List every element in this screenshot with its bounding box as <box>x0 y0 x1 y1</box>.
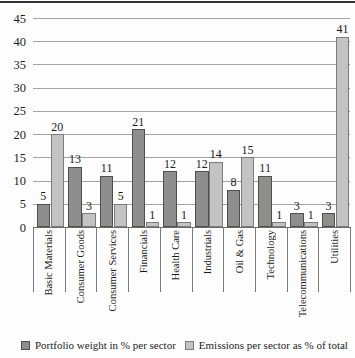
x-axis-category-label: Technology <box>264 230 277 279</box>
bar-value-label: 5 <box>110 190 132 203</box>
y-axis-tick-label: 20 <box>0 128 26 142</box>
x-axis-tick <box>160 228 161 292</box>
x-axis-category-label: Financials <box>137 230 150 273</box>
x-axis-category-label: Telecommunications <box>296 230 309 317</box>
bar-emissions <box>82 213 96 227</box>
legend-swatch-portfolio-weight-icon <box>21 341 30 350</box>
y-axis-tick-label: 30 <box>0 81 26 95</box>
x-axis-category-label: Basic Materials <box>42 230 55 296</box>
gridline <box>33 41 350 42</box>
x-axis-tick <box>318 228 319 292</box>
y-axis-tick-label: 45 <box>0 12 26 26</box>
bar-emissions <box>336 37 350 227</box>
gridline <box>33 18 350 19</box>
bar-value-label: 12 <box>159 158 181 171</box>
bar-value-label: 11 <box>96 162 118 175</box>
bar-emissions <box>241 157 255 227</box>
x-axis-category-label: Industrials <box>201 230 214 274</box>
bar-value-label: 21 <box>127 116 149 129</box>
x-axis-tick <box>255 228 256 292</box>
y-axis-tick-label: 15 <box>0 151 26 165</box>
legend-swatch-emissions-icon <box>185 341 194 350</box>
x-axis-tick <box>128 228 129 292</box>
bar-portfolio-weight <box>227 190 241 227</box>
plot-area: 051015202530354045520Basic Materials133C… <box>0 0 355 358</box>
legend-label-emissions: Emissions per sector as % of total <box>199 339 348 351</box>
bar-emissions <box>146 222 160 227</box>
bar-portfolio-weight <box>195 171 209 227</box>
x-axis-category-label: Health Care <box>169 230 182 280</box>
bar-emissions <box>51 134 65 227</box>
bar-emissions <box>209 162 223 227</box>
y-axis-tick-label: 40 <box>0 35 26 49</box>
y-axis-tick-label: 25 <box>0 104 26 118</box>
legend: Portfolio weight in % per sector Emissio… <box>21 339 348 351</box>
emissions-portfolio-bar-chart: 051015202530354045520Basic Materials133C… <box>0 0 355 358</box>
legend-entry-emissions: Emissions per sector as % of total <box>185 339 348 351</box>
x-axis-category-label: Consumer Services <box>106 230 119 311</box>
x-axis-tick <box>223 228 224 292</box>
x-axis-tick <box>65 228 66 292</box>
y-axis-tick-label: 5 <box>0 197 26 211</box>
bar-portfolio-weight <box>37 204 51 227</box>
y-axis-tick-label: 10 <box>0 174 26 188</box>
x-axis-category-label: Oil & Gas <box>233 230 246 273</box>
bar-emissions <box>177 222 191 227</box>
bar-emissions <box>114 204 128 227</box>
bar-value-label: 20 <box>46 121 68 134</box>
x-axis-tick <box>287 228 288 292</box>
gridline <box>33 111 350 112</box>
gridline <box>33 64 350 65</box>
x-axis-tick <box>33 228 34 292</box>
bar-portfolio-weight <box>322 213 336 227</box>
legend-entry-portfolio-weight: Portfolio weight in % per sector <box>21 339 176 351</box>
gridline <box>33 134 350 135</box>
legend-label-portfolio-weight: Portfolio weight in % per sector <box>35 339 176 351</box>
x-axis-tick <box>96 228 97 292</box>
bar-emissions <box>272 222 286 227</box>
bar-value-label: 1 <box>173 209 195 222</box>
bar-emissions <box>304 222 318 227</box>
bar-value-label: 15 <box>236 144 258 157</box>
y-axis-tick-label: 0 <box>0 221 26 235</box>
x-axis-category-label: Consumer Goods <box>74 230 87 303</box>
bar-value-label: 14 <box>205 148 227 161</box>
bar-value-label: 13 <box>64 153 86 166</box>
x-axis-tick <box>192 228 193 292</box>
bar-value-label: 11 <box>254 162 276 175</box>
bar-value-label: 41 <box>332 23 354 36</box>
y-axis-tick-label: 35 <box>0 58 26 72</box>
x-axis-category-label: Utilities <box>328 230 341 264</box>
bar-value-label: 3 <box>78 200 100 213</box>
bar-portfolio-weight <box>68 167 82 227</box>
bar-value-label: 1 <box>141 209 163 222</box>
x-axis-tick <box>350 228 351 292</box>
gridline <box>33 88 350 89</box>
